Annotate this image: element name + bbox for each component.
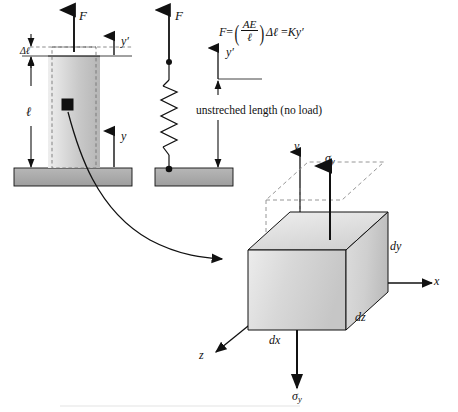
stress-element-marker [62, 99, 73, 110]
equation-equals-1: = [226, 25, 233, 39]
bar-y-prime-label: y′ [121, 35, 129, 47]
axis-y-label: y [294, 140, 299, 152]
equation-paren-open: ( [235, 23, 240, 46]
bar-force-label: F [79, 9, 87, 22]
spring-force-label: F [175, 9, 183, 22]
dy-label: dy [390, 240, 401, 252]
equation-fraction: AEℓ [241, 18, 259, 45]
sigma-y-bottom-label: σy [292, 390, 302, 404]
bar-y-label: y [121, 130, 126, 142]
cube-front-face [248, 250, 346, 330]
figure-graphics [0, 0, 458, 412]
equation-denominator: ℓ [241, 31, 259, 44]
delta-length-label: Δℓ [20, 46, 30, 56]
dz-label: dz [355, 311, 366, 323]
sigma-bottom-subscript: y [298, 394, 302, 404]
axis-z-label: z [199, 349, 204, 361]
spring-coil [161, 86, 177, 147]
spring-y-prime-label: y′ [226, 46, 234, 58]
equation-delta-l: Δℓ [266, 25, 278, 39]
bar-body [48, 56, 100, 168]
spring-bottom-node [166, 166, 173, 173]
axis-x-label: x [434, 275, 439, 287]
dx-label: dx [269, 334, 280, 346]
equation-paren-close: ) [260, 23, 265, 46]
equation-equals-2: = [281, 25, 288, 39]
stress-element-group [216, 152, 432, 388]
figure-canvas: F=(AEℓ)Δℓ =Ky′ F Δℓ ℓ y′ y F y′ unstrech… [0, 0, 458, 412]
equation-rhs: Ky′ [288, 25, 304, 39]
sigma-y-top-label: σy [325, 152, 335, 166]
bar-ground-block [14, 168, 132, 186]
bar-diagram-group [14, 10, 222, 259]
spring-constant-equation: F=(AEℓ)Δℓ =Ky′ [219, 18, 304, 46]
unstretched-length-label: unstreched length (no load) [196, 105, 322, 117]
equation-numerator: AE [241, 18, 259, 31]
sigma-top-subscript: y [331, 156, 335, 166]
length-label: ℓ [26, 105, 31, 118]
